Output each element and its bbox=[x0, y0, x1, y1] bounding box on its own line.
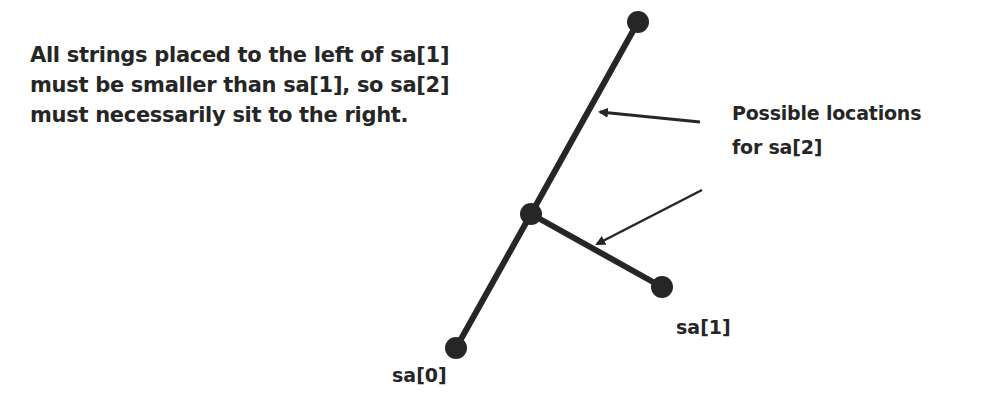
callout-line-1: Possible locations bbox=[732, 96, 921, 130]
possible-locations-callout: Possible locations for sa[2] bbox=[732, 96, 921, 164]
note-line-1: All strings placed to the left of sa[1] bbox=[30, 40, 449, 70]
node-branch bbox=[520, 203, 542, 225]
note-line-2: must be smaller than sa[1], so sa[2] bbox=[30, 70, 449, 100]
edge-branch-to-sa1 bbox=[531, 214, 662, 287]
node-label-sa1: sa[1] bbox=[676, 316, 731, 338]
edge-sa0-to-branch bbox=[456, 214, 531, 348]
callout-line-2: for sa[2] bbox=[732, 130, 921, 164]
arrow-lower-location bbox=[597, 190, 702, 244]
explanation-note: All strings placed to the left of sa[1] … bbox=[30, 40, 449, 130]
node-sa1 bbox=[651, 276, 673, 298]
arrow-upper-location bbox=[600, 112, 700, 122]
note-line-3: must necessarily sit to the right. bbox=[30, 100, 449, 130]
node-sa0 bbox=[445, 337, 467, 359]
edge-branch-to-top bbox=[531, 22, 638, 214]
node-top bbox=[627, 11, 649, 33]
node-label-sa0: sa[0] bbox=[392, 364, 447, 386]
